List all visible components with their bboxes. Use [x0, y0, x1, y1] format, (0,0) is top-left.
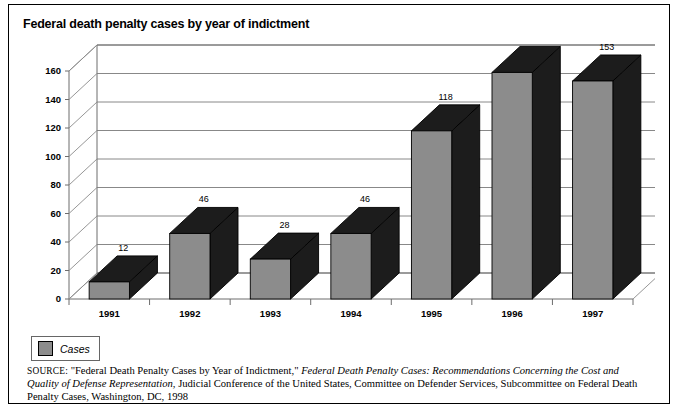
x-axis-label-1997: 1997: [582, 308, 603, 319]
source-quoted-title: "Federal Death Penalty Cases by Year of …: [71, 365, 299, 376]
x-axis-label-1996: 1996: [502, 308, 523, 319]
bar-value-label: 118: [438, 92, 452, 102]
bar-1993: [250, 233, 318, 299]
bar-1997: [573, 55, 641, 299]
bar-value-label: 12: [118, 243, 128, 253]
bar-value-label: 28: [279, 220, 289, 230]
x-axis-label-1992: 1992: [179, 308, 200, 319]
svg-text:0: 0: [56, 293, 61, 304]
svg-text:40: 40: [50, 236, 61, 247]
svg-text:160: 160: [45, 65, 61, 76]
bar-1992: [170, 207, 238, 299]
bar-1996: [492, 46, 560, 299]
bar-value-label: 46: [360, 194, 370, 204]
chart-title: Federal death penalty cases by year of i…: [23, 17, 309, 31]
x-axis-label-1993: 1993: [260, 308, 281, 319]
svg-text:20: 20: [50, 265, 61, 276]
bar-1995: [411, 105, 479, 299]
svg-text:60: 60: [50, 208, 61, 219]
bar-value-label: 153: [599, 42, 614, 52]
legend-swatch-cases: [38, 341, 53, 356]
bar-1991: [89, 256, 157, 299]
bar-value-label: 159: [519, 41, 534, 43]
legend-label-cases: Cases: [60, 343, 90, 355]
x-axis-label-1995: 1995: [421, 308, 443, 319]
svg-text:120: 120: [45, 122, 61, 133]
chart-plot-area: 0204060801001201401601219914619922819934…: [27, 41, 655, 331]
bar-1994: [331, 207, 399, 299]
x-axis-label-1994: 1994: [340, 308, 362, 319]
bar-chart-svg: 0204060801001201401601219914619922819934…: [27, 41, 655, 331]
source-keyword: SOURCE:: [27, 366, 68, 376]
bar-value-label: 46: [199, 194, 209, 204]
x-axis-label-1991: 1991: [99, 308, 121, 319]
source-note: SOURCE: "Federal Death Penalty Cases by …: [27, 365, 653, 403]
svg-text:80: 80: [50, 179, 61, 190]
chart-legend: Cases: [31, 336, 100, 361]
svg-text:140: 140: [45, 94, 61, 105]
figure-frame: Federal death penalty cases by year of i…: [8, 4, 670, 404]
svg-text:100: 100: [45, 151, 61, 162]
